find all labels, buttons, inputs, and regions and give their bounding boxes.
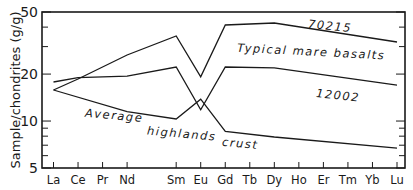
x-tick-label-pr: Pr bbox=[97, 173, 109, 187]
chart-svg: Sample/chondrites (g/g) 50 20 10 5 LaCeP… bbox=[0, 0, 413, 190]
x-tick-label-ce: Ce bbox=[70, 173, 85, 187]
x-tick-label-tm: Tm bbox=[338, 173, 357, 187]
y-tick-label-5: 5 bbox=[29, 160, 38, 176]
x-tick-label-er: Er bbox=[317, 173, 329, 187]
y-tick-label-20: 20 bbox=[20, 66, 38, 82]
y-tick-label-10: 10 bbox=[20, 113, 38, 129]
x-tick-label-dy: Dy bbox=[266, 173, 282, 187]
annotation-crust: crust bbox=[221, 135, 258, 152]
ree-pattern-chart: Sample/chondrites (g/g) 50 20 10 5 LaCeP… bbox=[0, 0, 413, 190]
y-axis-label: Sample/chondrites (g/g) bbox=[8, 12, 23, 169]
x-tick-label-eu: Eu bbox=[193, 173, 208, 187]
x-tick-label-ho: Ho bbox=[291, 173, 307, 187]
x-tick-label-yb: Yb bbox=[364, 173, 379, 187]
x-tick-label-sm: Sm bbox=[167, 173, 186, 187]
x-tick-label-lu: Lu bbox=[390, 173, 404, 187]
annotation-average: Average bbox=[83, 106, 143, 125]
x-tick-label-tb: Tb bbox=[242, 173, 257, 187]
x-tick-label-nd: Nd bbox=[119, 173, 135, 187]
annotation-12002: 12002 bbox=[315, 86, 360, 105]
x-ticks bbox=[54, 162, 398, 168]
x-tick-labels: LaCePrNdSmEuGdTbDyHoErTmYbLu bbox=[47, 173, 404, 187]
series-lines bbox=[54, 23, 398, 148]
y-tick-label-50: 50 bbox=[20, 4, 38, 20]
x-tick-label-la: La bbox=[47, 173, 60, 187]
annotation-70215: 70215 bbox=[307, 17, 352, 36]
annotation-typical-mare-basalts: Typical mare basalts bbox=[237, 41, 386, 63]
annotation-highlands: highlands bbox=[146, 124, 216, 144]
x-tick-label-gd: Gd bbox=[217, 173, 233, 187]
